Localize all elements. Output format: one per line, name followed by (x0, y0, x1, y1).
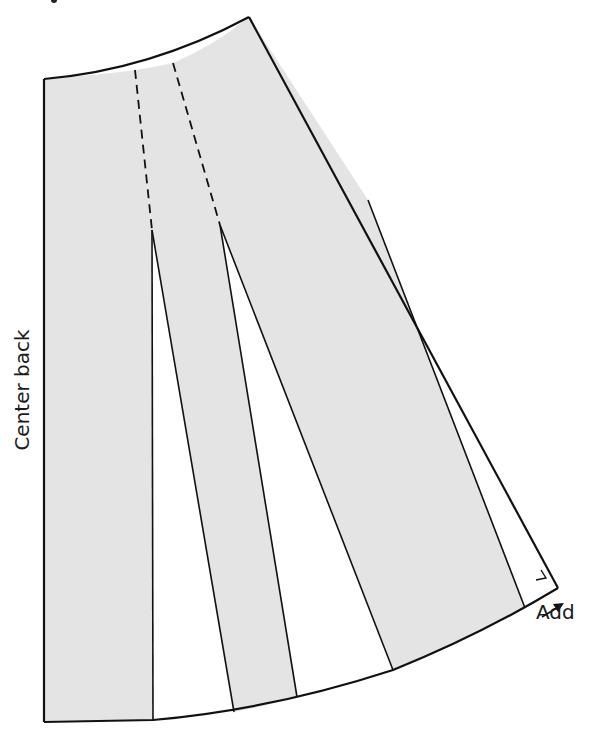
skirt-pattern-diagram (0, 0, 600, 731)
add-label: Add (536, 600, 575, 624)
center-back-panel (44, 70, 153, 722)
slash-1-left (152, 230, 153, 720)
center-back-label: Center back (10, 329, 34, 450)
